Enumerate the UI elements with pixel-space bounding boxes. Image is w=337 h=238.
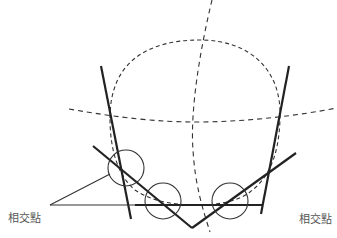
- right-steep-line: [261, 66, 289, 214]
- left-steep-line: [101, 66, 131, 219]
- pointer-line-diagonal: [50, 174, 110, 205]
- intersection-diagram: [0, 0, 337, 238]
- intersection-point-label-left: 相交點: [8, 209, 41, 225]
- left-diagonal-line: [93, 146, 192, 228]
- dashed-vertical-axis: [192, 0, 212, 232]
- intersection-point-label-right: 相交點: [299, 210, 332, 226]
- intersection-circle-middle: [145, 183, 181, 219]
